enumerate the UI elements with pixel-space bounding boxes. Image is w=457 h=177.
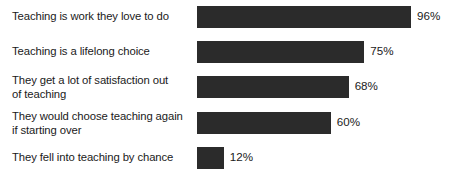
bar-value-label: 60% [337,115,360,129]
bar-category-label: Teaching is a lifelong choice [12,45,192,59]
bar-fill [197,41,364,63]
bar-category-label: They get a lot of satisfaction out of te… [12,74,192,101]
bar-track [197,112,331,134]
bar-value-label: 12% [230,150,253,164]
bar-track [197,6,411,28]
bar-fill [197,147,224,169]
bar-fill [197,6,411,28]
bar-category-label: They fell into teaching by chance [12,151,192,165]
bar-value-label: 96% [417,9,440,23]
horizontal-bar-chart: Teaching is work they love to do 96% Tea… [0,0,457,177]
bar-category-label: They would choose teaching again if star… [12,110,192,137]
bar-track [197,76,349,98]
bar-track [197,147,224,169]
bar-category-label: Teaching is work they love to do [12,10,192,24]
bar-value-label: 68% [355,79,378,93]
bar-fill [197,112,331,134]
bar-value-label: 75% [370,44,393,58]
bar-fill [197,76,349,98]
bar-track [197,41,364,63]
